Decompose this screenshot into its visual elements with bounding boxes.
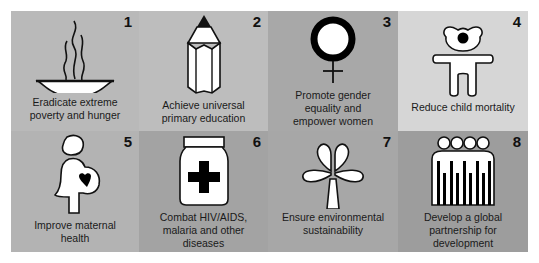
pencil-icon	[139, 13, 268, 97]
goal-panel-1: 1 Eradicate extreme poverty and hunger	[11, 11, 139, 131]
bowl-icon	[11, 17, 139, 93]
people-group-icon	[398, 135, 528, 207]
goal-label-line: Reduce child mortality	[402, 101, 524, 114]
goal-panel-6: 6 Combat HIV/AIDS, malaria and other dis…	[139, 131, 268, 252]
goal-label-line: diseases	[143, 237, 264, 250]
goals-grid: 1 Eradicate extreme poverty and hunger 2	[11, 11, 528, 252]
goal-label-line: development	[402, 237, 524, 250]
female-symbol-icon	[268, 15, 398, 85]
child-icon	[398, 21, 528, 97]
goal-label-line: Ensure environmental	[272, 211, 394, 224]
goal-label: Achieve universal primary education	[143, 99, 264, 125]
goal-label: Ensure environmental sustainability	[272, 211, 394, 237]
goal-label-line: partnership for	[402, 224, 524, 237]
goal-label-line: Develop a global	[402, 211, 524, 224]
goal-label: Combat HIV/AIDS, malaria and other disea…	[143, 211, 264, 250]
pregnant-woman-icon	[11, 133, 139, 215]
goal-label-line: Combat HIV/AIDS,	[143, 211, 264, 224]
goal-label-line: health	[15, 232, 135, 245]
goal-label-line: empower women	[272, 115, 394, 128]
goal-label-line: Improve maternal	[15, 219, 135, 232]
goal-panel-3: 3 Promote gender equality and empower wo…	[268, 11, 398, 131]
goal-label-line: equality and	[272, 102, 394, 115]
medicine-jar-icon	[139, 135, 268, 207]
goal-panel-5: 5 Improve maternal health	[11, 131, 139, 252]
goal-label-line: sustainability	[272, 224, 394, 237]
goal-label-line: poverty and hunger	[15, 109, 135, 122]
tree-icon	[268, 133, 398, 209]
goal-label: Improve maternal health	[15, 219, 135, 245]
goal-label-line: Promote gender	[272, 89, 394, 102]
goal-label-line: Achieve universal	[143, 99, 264, 112]
goal-label: Reduce child mortality	[402, 101, 524, 114]
goal-label: Promote gender equality and empower wome…	[272, 89, 394, 128]
goal-label-line: primary education	[143, 112, 264, 125]
goal-label: Eradicate extreme poverty and hunger	[15, 96, 135, 122]
goal-label-line: Eradicate extreme	[15, 96, 135, 109]
goal-panel-2: 2 Achieve universal primary education	[139, 11, 268, 131]
goal-label-line: malaria and other	[143, 224, 264, 237]
goal-panel-8: 8 Develop a global partnership fo	[398, 131, 528, 252]
goal-label: Develop a global partnership for develop…	[402, 211, 524, 250]
goal-panel-4: 4 Reduce child mortality	[398, 11, 528, 131]
goal-panel-7: 7 Ensure environmental sustainability	[268, 131, 398, 252]
